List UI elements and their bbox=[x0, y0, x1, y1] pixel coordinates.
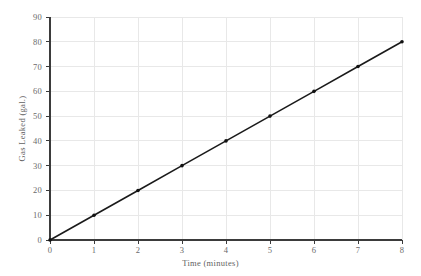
plot-area bbox=[50, 17, 402, 240]
x-tick-label: 1 bbox=[92, 245, 96, 255]
data-point bbox=[180, 164, 184, 168]
data-point bbox=[48, 238, 52, 242]
x-tick-label: 0 bbox=[48, 245, 52, 255]
x-tick-label: 3 bbox=[180, 245, 184, 255]
x-tick-label: 6 bbox=[312, 245, 316, 255]
data-point bbox=[312, 90, 316, 94]
x-tick-label: 2 bbox=[136, 245, 140, 255]
data-point bbox=[136, 189, 140, 193]
data-point bbox=[268, 114, 272, 118]
series-layer bbox=[50, 17, 402, 240]
chart-container: 0102030405060708090 012345678 Gas Leaked… bbox=[0, 0, 421, 276]
data-point bbox=[224, 139, 228, 143]
x-tick-label: 4 bbox=[224, 245, 228, 255]
x-tick-label: 8 bbox=[400, 245, 404, 255]
x-tick-label: 5 bbox=[268, 245, 272, 255]
data-point bbox=[92, 213, 96, 217]
x-axis-label: Time (minutes) bbox=[0, 258, 421, 268]
data-point bbox=[356, 65, 360, 69]
x-tick-label: 7 bbox=[356, 245, 360, 255]
y-axis-label: Gas Leaked (gal.) bbox=[14, 17, 30, 240]
data-point bbox=[400, 40, 404, 44]
